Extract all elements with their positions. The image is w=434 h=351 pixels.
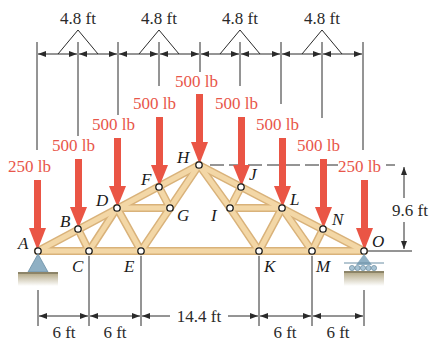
load-label-L: 500 lb: [256, 115, 299, 134]
node-label-L: L: [289, 190, 299, 209]
joint-B: [75, 226, 81, 232]
joint-M: [309, 248, 315, 254]
bottom-dim-label-4: 6 ft: [273, 323, 296, 342]
node-label-J: J: [249, 165, 258, 184]
load-arrow-icon: [274, 138, 291, 207]
node-label-B: B: [60, 212, 71, 231]
load-label-F: 500 lb: [133, 94, 176, 113]
node-label-M: M: [315, 257, 331, 276]
load-arrow-icon: [191, 94, 208, 164]
roller-support-icon: [344, 254, 384, 286]
node-label-I: I: [210, 206, 218, 225]
load-label-B: 500 lb: [52, 136, 95, 155]
load-arrow-icon: [315, 159, 332, 228]
load-arrow-icon: [356, 180, 373, 250]
joint-C: [86, 248, 92, 254]
node-label-C: C: [72, 257, 84, 276]
bottom-dim-label-2: 6 ft: [103, 323, 126, 342]
top-dim-label-4: 4.8 ft: [304, 9, 340, 28]
bottom-dim-label-3: 14.4 ft: [177, 307, 222, 326]
load-label-O: 250 lb: [338, 157, 381, 176]
top-dim-label-1: 4.8 ft: [60, 9, 96, 28]
load-arrow-icon: [151, 117, 168, 186]
truss-members: [38, 165, 364, 251]
load-label-D: 500 lb: [92, 115, 135, 134]
node-label-G: G: [177, 206, 189, 225]
load-arrow-icon: [29, 180, 46, 250]
bottom-dim-label-1: 6 ft: [52, 323, 75, 342]
load-label-J: 500 lb: [215, 94, 258, 113]
node-label-D: D: [95, 191, 109, 210]
load-label-N: 500 lb: [297, 136, 340, 155]
joint-J: [238, 184, 244, 190]
joint-D: [114, 205, 120, 211]
load-arrow-icon: [109, 138, 126, 207]
joint-F: [156, 184, 162, 190]
node-label-A: A: [17, 234, 29, 253]
top-dim-label-2: 4.8 ft: [141, 9, 177, 28]
joint-O: [361, 248, 367, 254]
joint-E: [138, 248, 144, 254]
load-label-A: 250 lb: [8, 157, 51, 176]
node-label-H: H: [176, 148, 191, 167]
truss-diagram: 4.8 ft 4.8 ft 4.8 ft 4.8 ft: [0, 0, 434, 351]
joint-N: [320, 226, 326, 232]
pin-support-icon: [18, 254, 58, 286]
joint-H: [196, 162, 202, 168]
load-label-H: 500 lb: [175, 72, 218, 91]
joint-L: [279, 205, 285, 211]
node-label-O: O: [372, 232, 384, 251]
height-dim-label: 9.6 ft: [392, 201, 428, 220]
node-label-F: F: [140, 170, 152, 189]
bottom-dim-label-5: 6 ft: [326, 323, 349, 342]
top-dim-label-3: 4.8 ft: [222, 9, 258, 28]
joint-I: [227, 205, 233, 211]
node-label-E: E: [123, 257, 135, 276]
node-label-K: K: [263, 257, 277, 276]
load-arrow-icon: [70, 159, 87, 228]
node-label-N: N: [331, 210, 345, 229]
joint-G: [167, 205, 173, 211]
load-arrow-icon: [233, 117, 250, 186]
joint-K: [256, 248, 262, 254]
